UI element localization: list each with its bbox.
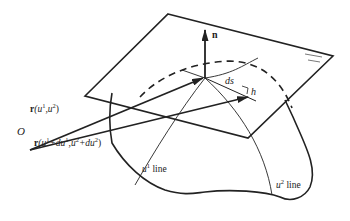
r-plus-dr-label: r(u1+du1,u2+du2) <box>34 136 101 149</box>
ds-label: ds <box>225 75 234 86</box>
u2-line-label: u2 line <box>276 178 301 190</box>
u1-line-label: u1 line <box>142 162 167 174</box>
h-bracket <box>242 86 248 94</box>
normal-label: n <box>212 29 218 40</box>
surface-dashed-edge <box>140 61 292 108</box>
origin-label: O <box>17 125 25 137</box>
surface-tangent-plane-diagram: n ds h O r(u1,u2) r(u1+du1,u2+du2) u1 li… <box>0 0 350 221</box>
plane-hatch <box>305 54 322 57</box>
tangent-line <box>182 70 205 78</box>
plane-hatch <box>308 60 320 62</box>
tangent-plane <box>85 14 333 138</box>
h-label: h <box>251 86 256 97</box>
u2-line-curve <box>205 78 272 195</box>
r-label: r(u1,u2) <box>30 102 59 115</box>
